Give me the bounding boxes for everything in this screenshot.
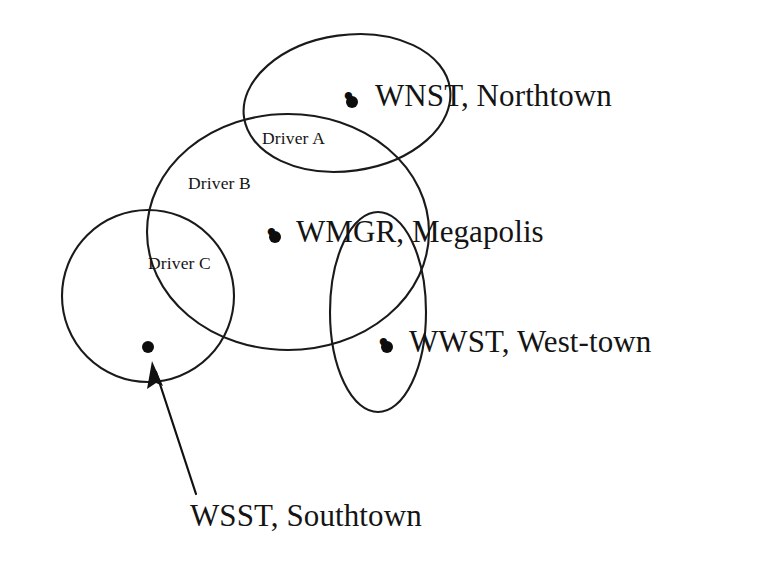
callout-arrow-head [147,361,163,389]
region-label-driver-b: Driver B [188,175,251,193]
station-label-wsst: WSST, Southtown [190,500,422,531]
coverage-diagram: Driver A Driver B Driver C • WNST, North… [0,0,760,573]
station-label-wnst: WNST, Northtown [375,80,612,111]
station-bullet-wwst: • [378,325,389,361]
station-label-wmgr: WMGR, Megapolis [296,216,544,247]
callout-arrow-line [156,372,196,494]
region-label-driver-a: Driver A [262,130,325,148]
station-dot-wsst [142,341,154,353]
region-label-driver-c: Driver C [148,255,211,273]
station-bullet-wnst: • [343,79,354,115]
station-bullet-wmgr: • [266,215,277,251]
station-label-wwst: WWST, West-town [409,326,651,357]
